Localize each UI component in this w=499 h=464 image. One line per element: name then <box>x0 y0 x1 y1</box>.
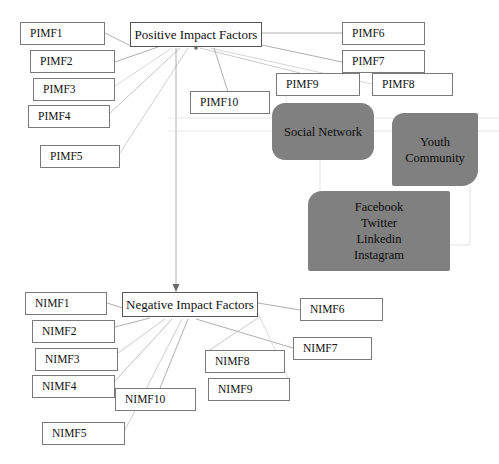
node-nimf7[interactable]: NIMF7 <box>293 337 372 360</box>
node-nimf1[interactable]: NIMF1 <box>25 292 107 315</box>
node-nimf3[interactable]: NIMF3 <box>35 348 118 371</box>
edge-pimf2 <box>115 47 158 62</box>
node-nimf5[interactable]: NIMF5 <box>42 422 125 445</box>
edge-pimf1 <box>105 33 131 46</box>
node-label: PIMF2 <box>40 56 73 68</box>
node-label: NIMF6 <box>310 304 345 316</box>
entity-label: Social Network <box>284 124 362 140</box>
node-pimf7[interactable]: PIMF7 <box>342 50 425 73</box>
node-nimf2[interactable]: NIMF2 <box>32 320 115 343</box>
entity-youth-community[interactable]: Youth Community <box>392 113 478 186</box>
platform-list: Facebook Twitter Linkedin Instagram <box>354 199 404 263</box>
node-label: NIMF5 <box>52 428 87 440</box>
edge-nimf6 <box>258 303 300 310</box>
platform-facebook: Facebook <box>354 199 404 215</box>
node-label: NIMF9 <box>218 384 253 396</box>
platform-linkedin: Linkedin <box>354 231 404 247</box>
node-label: Negative Impact Factors <box>126 298 254 311</box>
edge-nimf4 <box>115 319 172 381</box>
node-nimf4[interactable]: NIMF4 <box>32 375 115 398</box>
node-nimf10[interactable]: NIMF10 <box>115 388 196 411</box>
node-label: NIMF1 <box>35 298 70 310</box>
node-label: PIMF8 <box>382 79 415 91</box>
entity-label-group: Youth Community <box>405 134 465 166</box>
node-label: PIMF4 <box>38 111 71 123</box>
edge-pimf7 <box>262 45 342 62</box>
node-pimf10[interactable]: PIMF10 <box>190 91 270 114</box>
node-label: NIMF4 <box>42 381 77 393</box>
edge-nimf7 <box>196 319 293 348</box>
node-label: NIMF7 <box>303 343 338 355</box>
node-negative-impact-factors[interactable]: Negative Impact Factors <box>122 292 258 317</box>
node-positive-impact-factors[interactable]: Positive Impact Factors <box>130 22 262 47</box>
node-nimf6[interactable]: NIMF6 <box>300 298 383 321</box>
node-label: PIMF10 <box>200 97 238 109</box>
node-pimf5[interactable]: PIMF5 <box>40 145 120 168</box>
node-label: NIMF10 <box>125 394 165 406</box>
node-pimf6[interactable]: PIMF6 <box>342 22 425 45</box>
node-nimf8[interactable]: NIMF8 <box>205 350 285 373</box>
node-label: NIMF2 <box>42 326 77 338</box>
entity-label-line2: Community <box>405 150 465 166</box>
node-label: PIMF6 <box>352 28 385 40</box>
node-pimf2[interactable]: PIMF2 <box>30 50 115 73</box>
node-label: PIMF7 <box>352 56 385 68</box>
node-nimf9[interactable]: NIMF9 <box>208 378 290 401</box>
entity-label-line1: Youth <box>405 134 465 150</box>
edge-nimf1 <box>107 303 123 308</box>
node-pimf9[interactable]: PIMF9 <box>276 73 360 96</box>
node-label: PIMF3 <box>43 84 76 96</box>
node-label: NIMF3 <box>45 354 80 366</box>
platform-instagram: Instagram <box>354 247 404 263</box>
edge-nimf2 <box>115 318 150 327</box>
platform-twitter: Twitter <box>354 215 404 231</box>
spine-arrowhead <box>173 284 180 292</box>
edge-pimf3 <box>115 48 172 86</box>
node-pimf1[interactable]: PIMF1 <box>20 22 105 45</box>
node-pimf3[interactable]: PIMF3 <box>33 78 115 101</box>
node-label: PIMF5 <box>50 151 83 163</box>
entity-social-network[interactable]: Social Network <box>272 103 374 160</box>
node-label: NIMF8 <box>215 356 250 368</box>
node-label: Positive Impact Factors <box>135 28 258 41</box>
edge-pimf5 <box>120 48 188 153</box>
node-pimf8[interactable]: PIMF8 <box>372 73 453 96</box>
edge-pimf4 <box>110 48 180 113</box>
node-label: PIMF1 <box>30 28 63 40</box>
node-label: PIMF9 <box>286 79 319 91</box>
edge-nimf5 <box>125 319 182 430</box>
diagram-canvas: Positive Impact Factors Negative Impact … <box>0 0 499 464</box>
node-pimf4[interactable]: PIMF4 <box>28 105 110 128</box>
entity-social-platforms[interactable]: Facebook Twitter Linkedin Instagram <box>308 191 450 271</box>
